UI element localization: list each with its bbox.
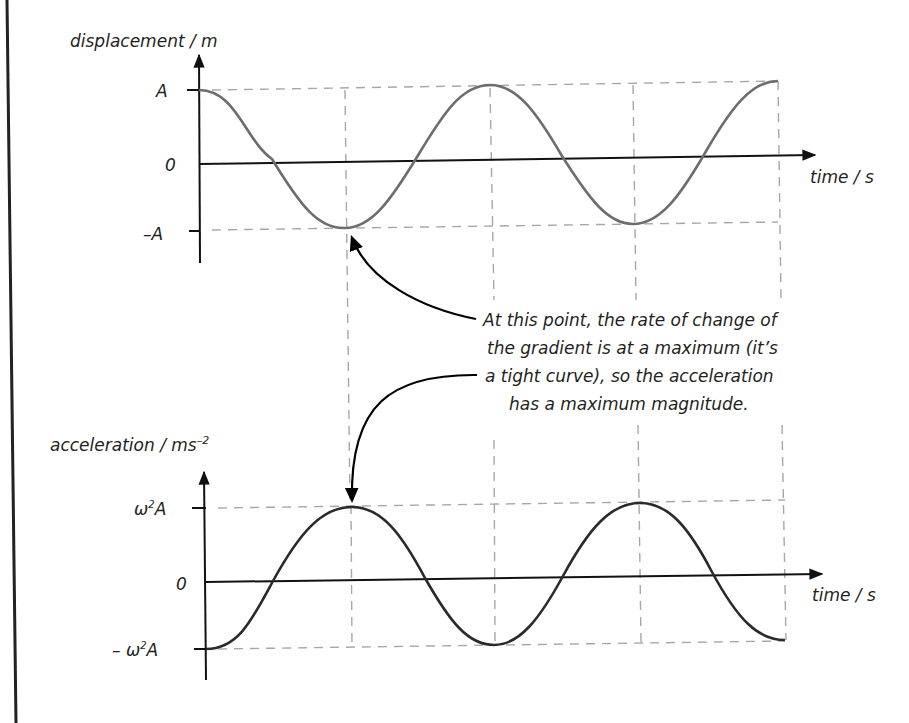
x-axis-label: time / s xyxy=(812,585,876,605)
grid-vline-b3 xyxy=(638,425,641,643)
annotation-line-1: At this point, the rate of change of xyxy=(482,310,780,330)
tick-label-neg-A: –A xyxy=(143,224,163,244)
annotation: At this point, the rate of change of the… xyxy=(352,238,780,500)
x-axis xyxy=(206,574,822,582)
annotation-line-2: the gradient is at a maximum (it’s xyxy=(487,338,778,358)
pointer-arrow-up xyxy=(352,238,476,319)
grid-line-omega2A xyxy=(218,500,785,508)
grid-line-neg-A xyxy=(212,222,778,230)
grid-vline-b4 xyxy=(782,425,786,640)
y-axis-label: displacement / m xyxy=(70,31,218,51)
pointer-arrow-down xyxy=(352,375,477,500)
grid-vline-1 xyxy=(345,90,350,505)
y-axis-label: acceleration / ms–2 xyxy=(50,434,209,455)
grid-vline-2 xyxy=(490,88,494,300)
annotation-line-4: has a maximum magnitude. xyxy=(509,394,749,414)
displacement-curve xyxy=(199,81,778,228)
tick-label-neg-omega2A: – ω2A xyxy=(112,640,158,660)
displacement-graph: displacement / m A 0 –A time / s xyxy=(70,31,874,505)
diagram: displacement / m A 0 –A time / s At this… xyxy=(0,0,909,723)
tick-label-zero: 0 xyxy=(176,574,187,594)
annotation-line-3: a tight curve), so the acceleration xyxy=(485,366,774,386)
tick-label-A: A xyxy=(155,81,168,101)
x-axis xyxy=(199,155,815,164)
grid-vline-b2 xyxy=(494,440,495,645)
acceleration-graph: acceleration / ms–2 ω2A 0 – ω2A time / s xyxy=(50,425,876,680)
grid-vline-3 xyxy=(633,85,636,300)
grid-vline-b1 xyxy=(351,505,352,647)
x-axis-label: time / s xyxy=(810,167,874,187)
tick-label-omega2A: ω2A xyxy=(134,499,166,519)
tick-label-zero: 0 xyxy=(165,155,176,175)
grid-vline-4 xyxy=(778,81,781,300)
page-border-line xyxy=(7,0,16,723)
